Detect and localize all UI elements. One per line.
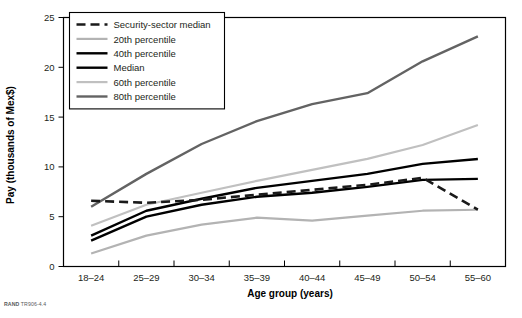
legend-label: 80th percentile xyxy=(114,91,176,102)
x-tick-label: 30–34 xyxy=(188,272,214,283)
y-tick-label: 20 xyxy=(44,62,55,73)
x-tick-label: 40–44 xyxy=(299,272,325,283)
svg-text:RAND TR906-4.4: RAND TR906-4.4 xyxy=(4,301,46,307)
y-axis-title: Pay (thousands of Mex$) xyxy=(5,86,16,204)
y-tick-label: 25 xyxy=(44,12,55,23)
legend-label: 40th percentile xyxy=(114,48,176,59)
x-tick-label: 55–60 xyxy=(465,272,491,283)
x-tick-label: 18–24 xyxy=(78,272,104,283)
legend-label: Median xyxy=(114,62,145,73)
credit-prefix: RAND xyxy=(4,301,20,307)
chart-figure: 0510152025 18–2425–2930–3435–3940–4445–4… xyxy=(0,0,522,318)
line-chart: 0510152025 18–2425–2930–3435–3940–4445–4… xyxy=(0,0,522,318)
y-tick-label: 10 xyxy=(44,161,55,172)
x-tick-label: 25–29 xyxy=(133,272,159,283)
credit-id: TR906-4.4 xyxy=(21,301,46,307)
x-tick-label: 50–54 xyxy=(409,272,435,283)
y-tick-label: 15 xyxy=(44,112,55,123)
y-tick-label: 0 xyxy=(49,261,54,272)
y-tick-label: 5 xyxy=(49,211,54,222)
legend-label: 60th percentile xyxy=(114,77,176,88)
x-tick-label: 35–39 xyxy=(244,272,270,283)
legend-label: Security-sector median xyxy=(114,19,211,30)
legend-label: 20th percentile xyxy=(114,34,176,45)
x-axis-title: Age group (years) xyxy=(247,288,333,299)
figure-credit: RAND TR906-4.4 xyxy=(4,301,46,307)
x-tick-label: 45–49 xyxy=(354,272,380,283)
chart-legend: Security-sector median20th percentile40t… xyxy=(70,13,225,109)
